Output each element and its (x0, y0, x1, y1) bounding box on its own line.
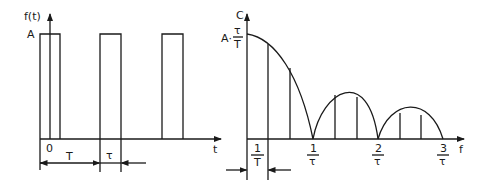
zero-tick-3-num: 3 (440, 142, 447, 155)
zero-tick-2-num: 2 (375, 142, 382, 155)
x-axis-label-t: t (213, 143, 218, 156)
zero-tick-3-den: τ (439, 155, 446, 168)
y-axis-label-ft: f(t) (24, 10, 41, 23)
period-label: T (65, 150, 73, 163)
amplitude-label: A (27, 28, 35, 41)
zero-tick-1-num: 1 (310, 142, 317, 155)
zero-tick-2-den: τ (374, 155, 381, 168)
main-lobe-envelope (247, 34, 313, 139)
peak-label-denominator: T (233, 38, 241, 51)
harmonic-spacing-den: T (253, 156, 261, 169)
origin-label: 0 (46, 142, 53, 155)
time-domain-plot: f(t) A 0 t T τ (24, 10, 221, 172)
third-lobe-envelope (378, 107, 443, 139)
peak-label-numerator: τ (234, 24, 241, 37)
second-lobe-envelope (313, 92, 378, 139)
fourier-pulse-diagram: f(t) A 0 t T τ C f A· τ T (0, 0, 490, 193)
pulse-2 (100, 34, 121, 139)
pulse-width-label: τ (106, 149, 113, 162)
zero-tick-1-den: τ (309, 155, 316, 168)
peak-label-prefix: A· (221, 32, 232, 45)
harmonic-spacing-num: 1 (254, 142, 261, 155)
x-axis-label-f: f (459, 143, 464, 156)
frequency-domain-plot: C f A· τ T 1 T 1 τ 2 τ 3 τ (221, 9, 464, 180)
pulse-3 (162, 34, 183, 139)
y-axis-label-c: C (236, 9, 244, 22)
